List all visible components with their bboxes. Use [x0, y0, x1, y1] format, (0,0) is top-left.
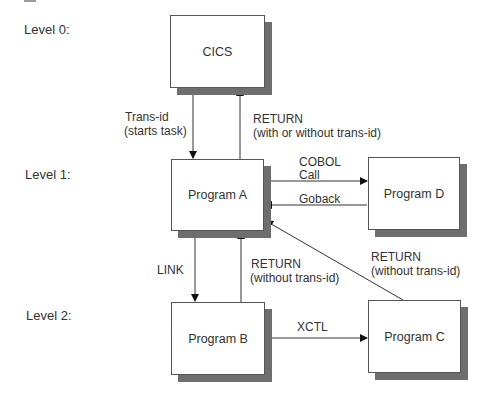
program-a-label: Program A	[188, 188, 247, 202]
return-c-sub-label: (without trans-id)	[371, 264, 460, 278]
return-top-sub-label: (with or without trans-id)	[253, 126, 381, 140]
cics-label: CICS	[203, 45, 233, 59]
starts-task-label: (starts task)	[124, 124, 187, 138]
return-top-label: RETURN	[253, 112, 303, 126]
return-c-label: RETURN	[371, 250, 421, 264]
program-b-box: Program B	[171, 302, 265, 375]
cics-box: CICS	[170, 15, 265, 88]
xctl-label: XCTL	[297, 320, 328, 334]
return-b-label: RETURN	[251, 257, 301, 271]
link-label: LINK	[157, 263, 184, 277]
trans-id-label: Trans-id	[125, 110, 169, 124]
program-b-label: Program B	[188, 332, 248, 346]
call-label: Call	[299, 168, 320, 182]
goback-label: Goback	[299, 192, 340, 206]
program-a-box: Program A	[171, 159, 264, 231]
program-c-label: Program C	[384, 330, 444, 344]
return-b-sub-label: (without trans-id)	[250, 271, 339, 285]
cobol-label: COBOL	[299, 155, 341, 169]
program-d-label: Program D	[384, 187, 444, 201]
program-c-box: Program C	[368, 300, 461, 373]
program-d-box: Program D	[368, 157, 460, 230]
